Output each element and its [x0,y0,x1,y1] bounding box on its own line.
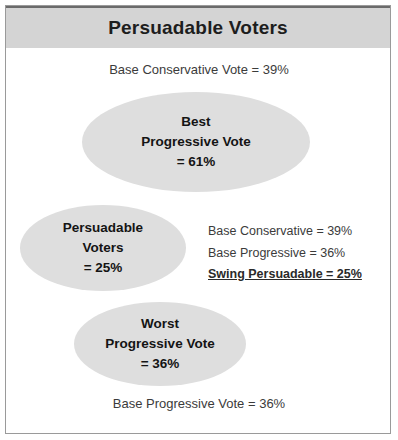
ellipse-worst-progressive-vote: Worst Progressive Vote = 36% [74,302,246,386]
ellipse-persuadable-line-2: Voters [82,238,123,258]
legend-item-base-progressive: Base Progressive = 36% [208,243,386,265]
persuadable-voters-figure: Persuadable Voters Base Conservative Vot… [0,0,398,440]
ellipse-persuadable-line-1: Persuadable [63,218,143,238]
caption-base-progressive: Base Progressive Vote = 36% [0,396,398,411]
legend-item-swing-persuadable: Swing Persuadable = 25% [208,264,386,286]
ellipse-persuadable-voters: Persuadable Voters = 25% [20,205,186,291]
page-title: Persuadable Voters [108,17,288,39]
ellipse-persuadable-value: = 25% [84,258,123,278]
figure-header-band: Persuadable Voters [6,6,390,48]
ellipse-best-value: = 61% [177,152,216,172]
caption-base-conservative: Base Conservative Vote = 39% [0,62,398,77]
ellipse-best-line-2: Progressive Vote [141,132,250,152]
ellipse-best-line-1: Best [181,112,210,132]
ellipse-worst-line-1: Worst [141,314,179,334]
legend-item-base-conservative: Base Conservative = 39% [208,221,386,243]
ellipse-worst-line-2: Progressive Vote [105,334,214,354]
legend: Base Conservative = 39% Base Progressive… [208,221,386,286]
ellipse-worst-value: = 36% [141,354,180,374]
ellipse-best-progressive-vote: Best Progressive Vote = 61% [82,92,310,192]
